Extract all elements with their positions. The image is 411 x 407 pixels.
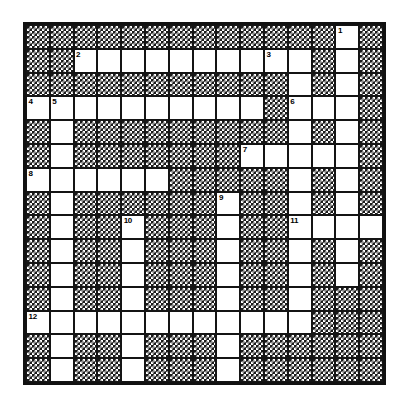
crossword-cell-open[interactable] — [335, 168, 359, 192]
crossword-cell-open[interactable]: 3 — [264, 49, 288, 73]
crossword-cell-open[interactable] — [169, 49, 193, 73]
crossword-cell-open[interactable] — [121, 168, 145, 192]
crossword-cell-open[interactable]: 7 — [240, 144, 264, 168]
crossword-cell-blocked — [145, 334, 169, 358]
crossword-cell-open[interactable] — [359, 215, 383, 239]
crossword-cell-open[interactable] — [288, 120, 312, 144]
crossword-cell-open[interactable] — [50, 358, 74, 382]
crossword-cell-open[interactable]: 4 — [26, 96, 50, 120]
crossword-cell-open[interactable]: 2 — [74, 49, 98, 73]
crossword-cell-open[interactable] — [169, 96, 193, 120]
crossword-cell-open[interactable] — [216, 215, 240, 239]
crossword-cell-open[interactable] — [50, 287, 74, 311]
crossword-cell-open[interactable] — [97, 168, 121, 192]
crossword-cell-open[interactable]: 12 — [26, 311, 50, 335]
crossword-cell-open[interactable] — [216, 358, 240, 382]
crossword-cell-open[interactable] — [288, 192, 312, 216]
crossword-cell-open[interactable] — [121, 49, 145, 73]
crossword-cell-open[interactable] — [97, 96, 121, 120]
crossword-cell-open[interactable] — [288, 144, 312, 168]
crossword-cell-open[interactable] — [216, 263, 240, 287]
crossword-cell-open[interactable] — [288, 168, 312, 192]
crossword-cell-open[interactable]: 9 — [216, 192, 240, 216]
crossword-cell-open[interactable] — [121, 358, 145, 382]
crossword-cell-open[interactable] — [216, 96, 240, 120]
crossword-cell-open[interactable] — [335, 73, 359, 97]
crossword-cell-open[interactable]: 10 — [121, 215, 145, 239]
crossword-cell-open[interactable] — [288, 263, 312, 287]
crossword-grid[interactable]: 123456789101112 — [26, 25, 383, 382]
crossword-cell-blocked — [97, 192, 121, 216]
crossword-cell-open[interactable]: 5 — [50, 96, 74, 120]
crossword-cell-open[interactable] — [335, 144, 359, 168]
crossword-cell-open[interactable] — [264, 144, 288, 168]
crossword-cell-open[interactable] — [50, 192, 74, 216]
crossword-cell-open[interactable] — [121, 311, 145, 335]
crossword-cell-open[interactable] — [288, 49, 312, 73]
crossword-cell-open[interactable] — [145, 168, 169, 192]
crossword-cell-open[interactable] — [240, 311, 264, 335]
crossword-cell-open[interactable] — [50, 144, 74, 168]
crossword-cell-open[interactable] — [288, 287, 312, 311]
crossword-cell-open[interactable] — [216, 311, 240, 335]
crossword-cell-blocked — [74, 192, 98, 216]
crossword-cell-blocked — [26, 334, 50, 358]
crossword-cell-blocked — [145, 263, 169, 287]
crossword-cell-open[interactable] — [312, 144, 336, 168]
crossword-cell-open[interactable] — [193, 96, 217, 120]
crossword-cell-open[interactable] — [121, 239, 145, 263]
crossword-cell-open[interactable] — [240, 96, 264, 120]
crossword-cell-open[interactable]: 11 — [288, 215, 312, 239]
crossword-cell-open[interactable] — [288, 73, 312, 97]
crossword-cell-open[interactable] — [288, 239, 312, 263]
cell-number-12: 12 — [29, 312, 37, 321]
crossword-cell-open[interactable] — [193, 49, 217, 73]
crossword-cell-open[interactable] — [312, 215, 336, 239]
crossword-cell-open[interactable] — [240, 49, 264, 73]
crossword-cell-open[interactable] — [50, 215, 74, 239]
crossword-cell-open[interactable]: 6 — [288, 96, 312, 120]
crossword-cell-open[interactable] — [145, 311, 169, 335]
crossword-cell-open[interactable] — [50, 120, 74, 144]
crossword-cell-blocked — [26, 192, 50, 216]
crossword-cell-open[interactable] — [50, 334, 74, 358]
crossword-cell-blocked — [97, 358, 121, 382]
crossword-cell-open[interactable] — [74, 311, 98, 335]
crossword-cell-open[interactable] — [216, 287, 240, 311]
crossword-cell-open[interactable] — [216, 49, 240, 73]
crossword-cell-open[interactable] — [216, 334, 240, 358]
crossword-cell-open[interactable] — [121, 96, 145, 120]
crossword-cell-open[interactable] — [335, 263, 359, 287]
crossword-cell-open[interactable] — [335, 239, 359, 263]
crossword-cell-blocked — [193, 263, 217, 287]
crossword-cell-open[interactable] — [335, 120, 359, 144]
crossword-cell-open[interactable] — [335, 192, 359, 216]
crossword-cell-open[interactable] — [50, 311, 74, 335]
crossword-cell-open[interactable] — [264, 311, 288, 335]
crossword-cell-open[interactable] — [145, 96, 169, 120]
crossword-cell-open[interactable] — [145, 49, 169, 73]
crossword-cell-open[interactable] — [312, 96, 336, 120]
crossword-cell-open[interactable] — [288, 311, 312, 335]
crossword-cell-open[interactable] — [74, 96, 98, 120]
crossword-cell-open[interactable] — [50, 239, 74, 263]
crossword-cell-blocked — [359, 358, 383, 382]
crossword-cell-blocked — [240, 358, 264, 382]
crossword-cell-open[interactable] — [216, 239, 240, 263]
crossword-cell-open[interactable] — [169, 311, 193, 335]
crossword-cell-open[interactable]: 1 — [335, 25, 359, 49]
crossword-cell-open[interactable] — [50, 168, 74, 192]
crossword-cell-open[interactable] — [193, 311, 217, 335]
crossword-cell-open[interactable] — [74, 168, 98, 192]
crossword-cell-open[interactable] — [121, 334, 145, 358]
crossword-cell-open[interactable] — [50, 263, 74, 287]
crossword-cell-open[interactable] — [335, 49, 359, 73]
crossword-cell-blocked — [145, 358, 169, 382]
crossword-cell-open[interactable] — [121, 287, 145, 311]
crossword-cell-open[interactable] — [335, 96, 359, 120]
crossword-cell-open[interactable]: 8 — [26, 168, 50, 192]
crossword-cell-open[interactable] — [121, 263, 145, 287]
crossword-cell-open[interactable] — [335, 215, 359, 239]
crossword-cell-open[interactable] — [97, 49, 121, 73]
crossword-cell-open[interactable] — [97, 311, 121, 335]
